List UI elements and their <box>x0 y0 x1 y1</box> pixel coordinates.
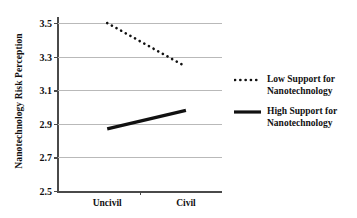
y-tick-label: 3.3 <box>40 51 53 62</box>
legend-label-high-support: High Support for Nanotechnology <box>267 106 337 129</box>
x-tick-label: Civil <box>176 198 196 208</box>
x-tick-label: Uncivil <box>93 198 122 208</box>
series-layer <box>58 23 222 191</box>
legend-item-high-support: High Support for Nanotechnology <box>234 106 354 129</box>
line-chart-figure: Nanotechnology Risk Perception 2.52.72.9… <box>0 0 357 218</box>
y-tick-label: 3.1 <box>40 85 53 96</box>
solid-line-marker <box>234 110 261 114</box>
x-axis-center-tick <box>140 191 141 195</box>
series-low-support-line <box>107 23 186 67</box>
legend-label-low-support-line1: Low Support for <box>267 74 335 84</box>
y-tick-label: 2.5 <box>40 186 53 197</box>
legend-item-low-support: Low Support for Nanotechnology <box>234 74 354 97</box>
series-high-support-line <box>107 110 186 128</box>
y-axis-title: Nanotechnology Risk Perception <box>14 11 24 191</box>
chart-legend: Low Support for Nanotechnology High Supp… <box>234 74 354 138</box>
y-tick-label: 2.7 <box>40 152 53 163</box>
legend-label-low-support-line2: Nanotechnology <box>267 86 332 96</box>
y-tick-label: 3.5 <box>40 18 53 29</box>
legend-label-low-support: Low Support for Nanotechnology <box>267 74 335 97</box>
y-tick-label: 2.9 <box>40 118 53 129</box>
legend-label-high-support-line2: Nanotechnology <box>267 118 332 128</box>
plot-area: 2.52.72.93.13.33.5 UncivilCivil <box>58 23 222 191</box>
legend-label-high-support-line1: High Support for <box>267 106 337 116</box>
dotted-line-marker <box>234 78 261 82</box>
